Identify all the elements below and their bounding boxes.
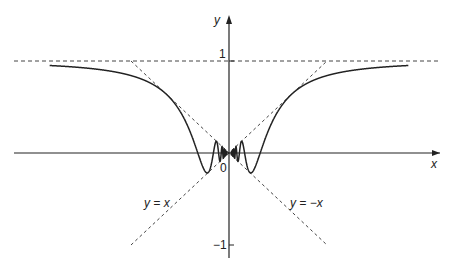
label-y-equals-x: y = x <box>143 196 171 210</box>
label-y-equals-neg-x: y = −x <box>289 196 324 210</box>
x-axis-label: x <box>430 157 438 171</box>
y-axis-label: y <box>213 13 221 27</box>
x-axis-arrow-icon <box>432 150 440 156</box>
function-graph: y x 1 −1 0 y = x y = −x <box>0 0 451 262</box>
origin-label: 0 <box>220 161 227 175</box>
tick-label-neg-1: −1 <box>213 238 227 252</box>
tick-label-1: 1 <box>219 47 226 61</box>
y-axis-arrow-icon <box>226 15 232 24</box>
